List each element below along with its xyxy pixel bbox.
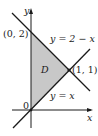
region-diagram: y x (0, 2) (1, 1) 0 D y = 2 − x y = x <box>0 0 98 136</box>
line-label-y-equals-x: y = x <box>49 90 75 101</box>
point-origin <box>30 109 33 112</box>
point-label-1-1: (1, 1) <box>72 64 98 75</box>
point-label-0-2: (0, 2) <box>3 28 29 39</box>
region-label: D <box>40 64 49 75</box>
point-1-1 <box>67 68 70 71</box>
x-axis-label: x <box>87 112 93 123</box>
y-axis-arrow-icon <box>29 8 33 14</box>
y-axis-label: y <box>23 5 30 16</box>
origin-label: 0 <box>23 100 29 111</box>
line-label-y-equals-2-minus-x: y = 2 − x <box>49 33 95 44</box>
